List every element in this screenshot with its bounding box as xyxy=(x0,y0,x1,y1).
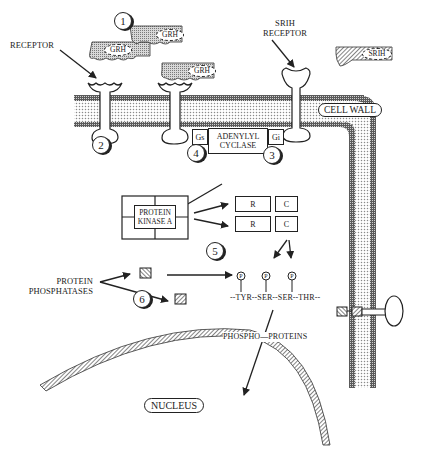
gi-protein: Gi xyxy=(268,129,284,145)
gs-protein: Gs xyxy=(192,129,208,145)
phosphate-label-2: P xyxy=(262,271,270,281)
grh-ligand-2: GRH xyxy=(156,29,184,41)
protein-phosphatases-line2: PHOSPHATASES xyxy=(10,286,93,296)
amino-acid-chain: --TYR--SER--SER--THR-- xyxy=(230,293,320,303)
phosphatase-square-1 xyxy=(140,268,151,278)
grh-ligand-1: GRH xyxy=(104,44,132,56)
step-number-6: 6 xyxy=(133,290,151,308)
regulatory-subunit-2: R xyxy=(235,216,271,232)
step-number-4: 4 xyxy=(187,144,205,162)
phosphoproteins-label: PHOSPHO—PROTEINS xyxy=(223,332,307,342)
protein-kinase-a: PROTEIN KINASE A xyxy=(134,205,176,229)
phosphate-label-3: P xyxy=(288,271,296,281)
adenylyl-cyclase-line2: CYCLASE xyxy=(220,141,256,150)
protein-kinase-a-line2: KINASE A xyxy=(138,217,172,226)
phosphate-label-1: P xyxy=(237,271,245,281)
phosphatase-square-2 xyxy=(175,294,186,304)
step-number-2: 2 xyxy=(92,136,110,154)
protein-kinase-a-line1: PROTEIN xyxy=(139,208,171,217)
step-number-1: 1 xyxy=(114,12,132,30)
srih-receptor-label-line1: SRIH xyxy=(255,18,315,28)
receptor-label: RECEPTOR xyxy=(10,40,54,50)
catalytic-subunit-1: C xyxy=(275,196,298,212)
srih-receptor-label: SRIH RECEPTOR xyxy=(255,18,315,38)
cell-wall-label: CELL WALL xyxy=(318,103,382,117)
protein-phosphatases-line1: PROTEIN xyxy=(10,276,93,286)
adenylyl-cyclase-line1: ADENYLYL xyxy=(217,132,260,141)
regulatory-subunit-1: R xyxy=(235,196,271,212)
grh-ligand-3: GRH xyxy=(188,65,216,77)
srih-ligand-label: SRIH xyxy=(362,48,392,60)
srih-receptor-label-line2: RECEPTOR xyxy=(255,28,315,38)
nucleus-label: NUCLEUS xyxy=(144,398,204,413)
step-number-3: 3 xyxy=(263,146,281,164)
catalytic-subunit-2: C xyxy=(275,216,298,232)
adenylyl-cyclase: ADENYLYL CYCLASE xyxy=(208,128,268,154)
nucleus-envelope xyxy=(40,329,330,445)
step-number-5: 5 xyxy=(206,242,224,260)
protein-phosphatases-label: PROTEIN PHOSPHATASES xyxy=(10,276,93,296)
